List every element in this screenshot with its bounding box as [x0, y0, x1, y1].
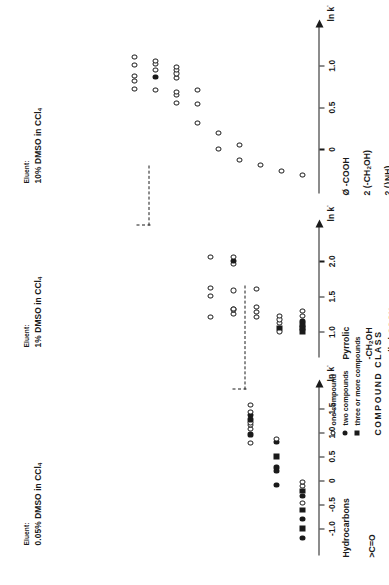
data-point	[299, 493, 304, 498]
data-point	[299, 479, 304, 484]
data-point	[152, 74, 157, 79]
data-point	[299, 500, 304, 505]
x-axis-line	[318, 25, 319, 193]
x-tick-label: 0	[326, 471, 336, 489]
data-point	[299, 535, 304, 540]
eluent-label-prefix: Eluent:	[22, 522, 29, 545]
data-point	[173, 89, 178, 94]
eluent-label: 10% DMSO in CCl4	[32, 107, 43, 183]
data-point	[247, 402, 252, 407]
data-point	[194, 101, 199, 106]
data-point	[299, 313, 304, 318]
x-axis-arrow	[315, 379, 323, 387]
data-point	[131, 73, 136, 78]
data-point	[273, 482, 278, 487]
x-axis-line	[318, 225, 319, 357]
x-axis-arrow	[315, 19, 323, 27]
x-axis-arrow	[315, 219, 323, 227]
x-axis-tick	[319, 260, 324, 261]
x-axis-tick	[319, 296, 324, 297]
x-axis-tick	[319, 432, 324, 433]
x-axis-tick	[319, 65, 324, 66]
data-point	[247, 440, 252, 445]
data-point	[253, 314, 258, 319]
data-point	[273, 453, 278, 458]
legend-label: three or more compounds	[352, 336, 361, 425]
category-label: Hydrocarbons	[340, 498, 350, 557]
data-point	[236, 142, 241, 147]
x-axis-tick	[319, 107, 324, 108]
legend-label: one compound	[328, 373, 337, 425]
category-label: 2 (⟩NH)	[382, 165, 389, 195]
eluent-label: 0.05% DMSO in CCl4	[32, 462, 43, 545]
panel-separator-1-tick	[232, 388, 246, 389]
x-axis-title: ln k'	[325, 5, 335, 21]
data-point	[173, 64, 178, 69]
x-tick-label: -0.5	[326, 495, 336, 513]
data-point	[299, 516, 304, 521]
data-point	[230, 287, 235, 292]
x-tick-label: 1.0	[326, 322, 336, 340]
data-point	[173, 100, 178, 105]
data-point	[299, 308, 304, 313]
compound-class-axis-title: COMPOUND CLASS	[372, 330, 382, 435]
legend-marker-one-compound	[330, 430, 335, 435]
data-point	[299, 318, 304, 323]
category-label: Pyrrolic	[340, 326, 350, 359]
data-point	[276, 325, 281, 330]
data-point	[230, 254, 235, 259]
scatter-figure: Eluent:0.05% DMSO in CCl4-1.0-0.500.51.0…	[0, 0, 389, 585]
x-axis-tick	[319, 528, 324, 529]
panel-separator-2-tick	[136, 224, 150, 225]
x-tick-label: 0	[326, 140, 336, 158]
x-tick-label: 0.5	[326, 447, 336, 465]
data-point	[247, 409, 252, 414]
data-point	[273, 436, 278, 441]
data-point	[152, 87, 157, 92]
data-point	[253, 286, 258, 291]
data-point	[278, 168, 283, 173]
data-point	[152, 67, 157, 72]
panel-separator-2	[148, 165, 149, 225]
data-point	[253, 309, 258, 314]
x-axis-tick	[319, 331, 324, 332]
data-point	[273, 465, 278, 470]
data-point	[247, 431, 252, 436]
data-point	[299, 525, 304, 530]
data-point	[257, 162, 262, 167]
data-point	[207, 254, 212, 259]
data-point	[236, 157, 241, 162]
data-point	[215, 146, 220, 151]
x-axis-tick	[319, 480, 324, 481]
x-axis-tick	[319, 408, 324, 409]
data-point	[152, 58, 157, 63]
data-point	[299, 507, 304, 512]
x-tick-label: 2.0	[326, 252, 336, 270]
legend-marker-three-compounds	[354, 430, 359, 435]
legend-marker-two-compounds	[342, 430, 347, 435]
x-axis-tick	[319, 456, 324, 457]
eluent-label-prefix: Eluent:	[22, 160, 29, 183]
data-point	[207, 293, 212, 298]
x-axis-line	[318, 385, 319, 555]
data-point	[276, 313, 281, 318]
data-point	[131, 78, 136, 83]
x-tick-label: -1.0	[326, 519, 336, 537]
figure-canvas: Eluent:0.05% DMSO in CCl4-1.0-0.500.51.0…	[0, 0, 389, 585]
data-point	[207, 314, 212, 319]
data-point	[215, 130, 220, 135]
x-axis-tick	[319, 148, 324, 149]
x-axis-tick	[319, 504, 324, 505]
eluent-label: 1% DMSO in CCl4	[32, 276, 43, 347]
data-point	[131, 62, 136, 67]
eluent-label-prefix: Eluent:	[22, 324, 29, 347]
data-point	[131, 54, 136, 59]
x-tick-label: 1.5	[326, 287, 336, 305]
data-point	[194, 87, 199, 92]
x-axis-title: ln k'	[325, 205, 335, 221]
legend-label: two compounds	[340, 370, 349, 425]
data-point	[131, 86, 136, 91]
x-tick-label: 1.0	[326, 56, 336, 74]
category-label: >C=O	[366, 534, 376, 557]
data-point	[253, 304, 258, 309]
